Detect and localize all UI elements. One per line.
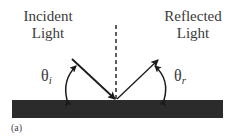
theta-symbol: θ (41, 67, 49, 84)
reflected-ray-arrow (117, 60, 158, 99)
incident-label-line1: Incident (8, 8, 88, 25)
incident-label-line2: Light (8, 25, 88, 42)
reflected-angle-arc (155, 66, 166, 100)
reflected-label-line1: Reflected (148, 8, 238, 25)
incident-light-label: Incident Light (8, 8, 88, 42)
theta-subscript-i: i (49, 74, 52, 86)
figure-caption: (a) (11, 122, 22, 133)
incident-angle-arc (66, 66, 76, 100)
reflecting-surface (12, 100, 223, 118)
reflected-light-label: Reflected Light (148, 8, 238, 42)
incident-ray-arrow (72, 59, 115, 99)
theta-subscript-r: r (182, 74, 186, 86)
reflected-label-line2: Light (148, 25, 238, 42)
angle-of-reflection-label: θr (174, 67, 186, 86)
theta-symbol: θ (174, 67, 182, 84)
angle-of-incidence-label: θi (41, 67, 52, 86)
